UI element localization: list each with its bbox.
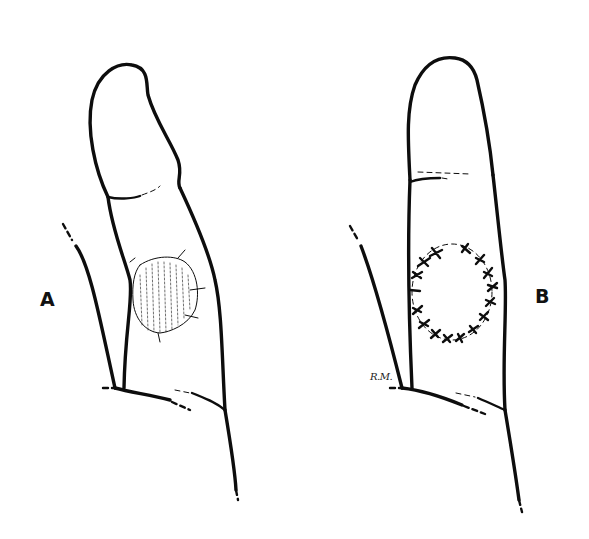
panel-label-a: A: [40, 290, 55, 309]
finger-drawings: [0, 0, 589, 539]
illustration: A B R.M.: [0, 0, 589, 539]
panel-b-sutured-graft: [410, 244, 497, 342]
panel-a-wound: [130, 250, 205, 342]
panel-label-b: B: [535, 287, 549, 306]
panel-a-finger: [63, 64, 238, 500]
artist-signature: R.M.: [370, 371, 392, 382]
